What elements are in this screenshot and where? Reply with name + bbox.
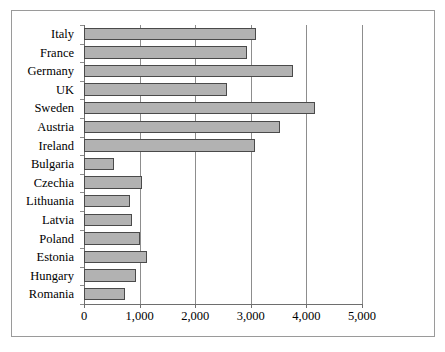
bar-row <box>84 192 362 211</box>
gridline-5000 <box>362 25 363 304</box>
bar-italy <box>84 28 256 40</box>
x-tick-label-0: 0 <box>81 309 87 324</box>
bar-estonia <box>84 251 147 263</box>
bar-row <box>84 25 362 44</box>
bar-row <box>84 211 362 230</box>
bar-row <box>84 285 362 304</box>
category-label-france: France <box>40 44 74 63</box>
category-label-sweden: Sweden <box>34 99 74 118</box>
category-label-romania: Romania <box>29 285 74 304</box>
bar-poland <box>84 232 140 244</box>
bar-uk <box>84 83 227 95</box>
bar-bulgaria <box>84 158 114 170</box>
category-label-bulgaria: Bulgaria <box>31 155 74 174</box>
category-label-latvia: Latvia <box>42 211 74 230</box>
chart-figure: ItalyFranceGermanyUKSwedenAustriaIreland… <box>11 10 435 337</box>
bar-row <box>84 99 362 118</box>
bar-germany <box>84 65 293 77</box>
bar-row <box>84 118 362 137</box>
category-label-lithuania: Lithuania <box>26 192 74 211</box>
category-label-estonia: Estonia <box>37 248 75 267</box>
category-label-austria: Austria <box>37 118 74 137</box>
category-label-hungary: Hungary <box>30 267 74 286</box>
bar-row <box>84 174 362 193</box>
x-axis-line <box>84 304 362 305</box>
category-label-germany: Germany <box>27 62 74 81</box>
bar-row <box>84 155 362 174</box>
bar-romania <box>84 288 125 300</box>
bar-hungary <box>84 269 136 281</box>
category-label-ireland: Ireland <box>39 137 74 156</box>
category-label-uk: UK <box>56 81 74 100</box>
bar-austria <box>84 121 280 133</box>
category-label-italy: Italy <box>51 25 74 44</box>
x-tick-mark-5000 <box>362 304 363 308</box>
bar-czechia <box>84 176 142 188</box>
bar-france <box>84 46 247 58</box>
x-tick-label-2000: 2,000 <box>181 309 209 324</box>
bar-row <box>84 267 362 286</box>
bar-series <box>84 25 362 304</box>
bar-ireland <box>84 139 255 151</box>
bar-row <box>84 230 362 249</box>
bar-row <box>84 81 362 100</box>
bar-lithuania <box>84 195 130 207</box>
bar-row <box>84 248 362 267</box>
y-axis-category-labels: ItalyFranceGermanyUKSwedenAustriaIreland… <box>12 25 78 304</box>
category-label-poland: Poland <box>39 230 74 249</box>
category-label-czechia: Czechia <box>34 174 74 193</box>
bar-row <box>84 137 362 156</box>
x-axis-tick-labels: 01,0002,0003,0004,0005,000 <box>84 309 362 329</box>
x-tick-label-5000: 5,000 <box>348 309 376 324</box>
bar-sweden <box>84 102 315 114</box>
x-tick-label-1000: 1,000 <box>126 309 154 324</box>
bar-row <box>84 62 362 81</box>
x-tick-label-3000: 3,000 <box>237 309 265 324</box>
bar-latvia <box>84 214 132 226</box>
bar-row <box>84 44 362 63</box>
plot-area <box>84 25 362 304</box>
x-tick-label-4000: 4,000 <box>292 309 320 324</box>
